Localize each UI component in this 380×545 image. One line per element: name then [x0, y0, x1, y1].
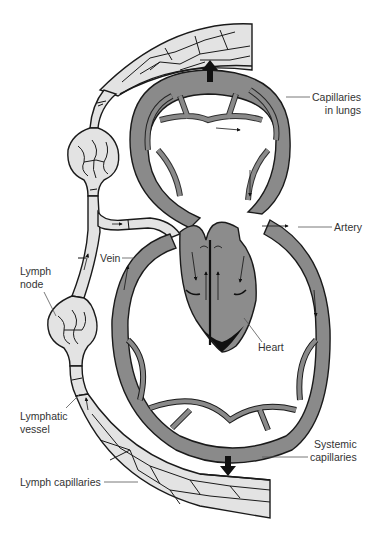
label-line: Lymph [20, 265, 51, 278]
label-line: in lungs [312, 104, 361, 117]
pulmonary-circulation [130, 70, 290, 228]
upper-lymphatic-vessel [90, 90, 116, 128]
label-line: Lymphatic [20, 410, 67, 423]
label-lymph-capillaries: Lymph capillaries [20, 476, 101, 489]
label-line: Capillaries [312, 91, 361, 104]
label-systemic-capillaries: Systemic capillaries [310, 438, 357, 464]
label-lymphatic-vessel: Lymphatic vessel [20, 410, 67, 436]
heart [180, 222, 256, 352]
middle-lymphatic-vessel [72, 196, 100, 298]
label-capillaries-in-lungs: Capillaries in lungs [312, 91, 361, 117]
label-line: vessel [20, 423, 67, 436]
lower-lymphatic-vessel [70, 366, 88, 396]
label-line: node [20, 278, 51, 291]
label-line: capillaries [310, 451, 357, 464]
label-vein: Vein [100, 252, 120, 265]
label-artery: Artery [334, 221, 362, 234]
lymph-node-upper [68, 128, 119, 196]
lymph-node-lower [48, 296, 97, 366]
label-lymph-node: Lymph node [20, 265, 51, 291]
label-line: Systemic [310, 438, 357, 451]
label-heart: Heart [258, 341, 284, 354]
